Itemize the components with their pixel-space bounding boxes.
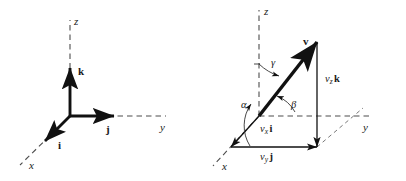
component-label-vy-j: vyj <box>260 152 273 163</box>
component-vx-scalar: v <box>260 123 265 134</box>
unit-vector-label-k: k <box>78 66 84 77</box>
unit-vector-label-i: i <box>58 140 61 151</box>
axis-label-x: x <box>222 161 227 172</box>
unit-vectors-diagram <box>0 0 203 181</box>
unit-vector-i-arrow <box>45 116 70 141</box>
component-label-vx-i: vxi <box>260 124 272 135</box>
component-vy-unit: j <box>270 151 274 162</box>
vector-v-arrow <box>259 42 317 116</box>
component-vx-subscript: x <box>265 127 268 136</box>
axis-label-y: y <box>160 122 165 133</box>
projection-edge-far-y <box>317 108 363 147</box>
component-vx-unit: i <box>270 123 273 134</box>
components-diagram <box>203 0 406 181</box>
panel-unit-vectors: z y x k j i <box>0 0 203 181</box>
axis-label-y: y <box>363 122 368 133</box>
component-vz-scalar: v <box>325 73 330 84</box>
component-vy-scalar: v <box>260 151 265 162</box>
component-vy-subscript: y <box>265 155 268 164</box>
angle-label-gamma: γ <box>271 58 275 69</box>
component-label-vz-k: vzk <box>325 74 340 85</box>
axis-label-z: z <box>264 6 268 17</box>
vector-label-v: v <box>303 36 309 47</box>
axis-label-z: z <box>74 16 78 27</box>
axis-label-x: x <box>29 160 34 171</box>
angle-label-beta: β <box>291 100 296 111</box>
figure-root: z y x k j i <box>0 0 406 181</box>
angle-label-alpha: α <box>241 100 247 111</box>
unit-vector-label-j: j <box>106 124 110 135</box>
panel-components: z y x v α β γ vxi vyj vzk <box>203 0 406 181</box>
component-vz-subscript: z <box>330 77 333 86</box>
component-vz-unit: k <box>334 73 340 84</box>
angle-arc-gamma <box>259 64 279 76</box>
